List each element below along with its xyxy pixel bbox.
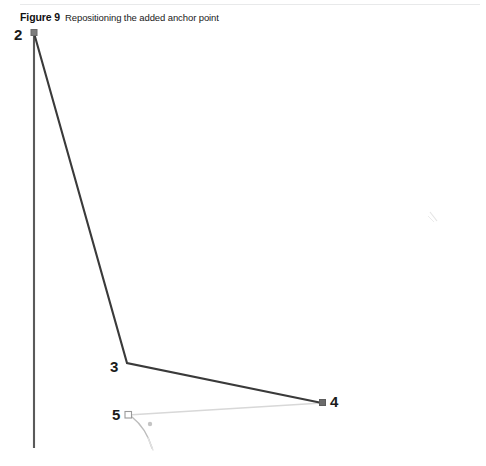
anchor-point-2[interactable] (31, 30, 37, 36)
callout-label-5: 5 (112, 407, 120, 422)
main-vector-path[interactable] (34, 33, 322, 403)
callout-label-2: 2 (14, 27, 22, 42)
preview-path-segment-5-4 (128, 403, 322, 415)
vector-artwork-canvas (0, 0, 486, 466)
direction-handle-curve[interactable] (132, 417, 152, 448)
direction-handle-curve-fade (148, 438, 153, 450)
callout-label-4: 4 (330, 394, 338, 409)
anchor-point-4[interactable] (320, 400, 326, 406)
scan-artifact-mark (428, 212, 437, 222)
figure-page: Figure 9Repositioning the added anchor p… (0, 0, 486, 466)
anchor-point-5[interactable] (125, 412, 132, 419)
direction-handle-dot[interactable] (148, 422, 152, 426)
callout-label-3: 3 (110, 359, 118, 374)
